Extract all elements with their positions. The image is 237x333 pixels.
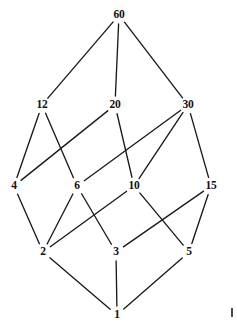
edge-layer bbox=[0, 0, 237, 333]
node-label-5: 5 bbox=[185, 246, 193, 258]
node-label-12: 12 bbox=[35, 99, 48, 111]
edge-10-5 bbox=[140, 193, 183, 245]
edge-6-3 bbox=[82, 194, 112, 245]
edge-12-6 bbox=[46, 113, 74, 177]
edge-30-10 bbox=[139, 112, 183, 178]
edge-20-10 bbox=[117, 114, 132, 177]
edge-3-1 bbox=[116, 261, 117, 306]
edge-2-1 bbox=[50, 258, 110, 309]
edge-20-4 bbox=[21, 111, 108, 181]
edge-60-12 bbox=[48, 22, 113, 98]
node-label-10: 10 bbox=[127, 180, 140, 192]
edge-30-15 bbox=[190, 114, 208, 178]
edge-6-2 bbox=[47, 194, 73, 244]
node-label-20: 20 bbox=[108, 99, 121, 111]
hasse-diagram: 601220304610152351 bbox=[0, 0, 237, 333]
node-label-2: 2 bbox=[39, 246, 47, 258]
edge-60-20 bbox=[115, 24, 118, 96]
edge-group bbox=[17, 22, 209, 309]
node-label-4: 4 bbox=[10, 180, 18, 192]
edge-60-30 bbox=[124, 22, 182, 98]
edge-15-5 bbox=[192, 195, 208, 244]
edge-4-2 bbox=[18, 194, 40, 244]
node-label-30: 30 bbox=[181, 99, 194, 111]
edge-30-6 bbox=[84, 110, 180, 180]
page-edge-artifact bbox=[231, 308, 233, 317]
node-label-3: 3 bbox=[112, 246, 120, 258]
node-label-15: 15 bbox=[204, 180, 217, 192]
node-label-1: 1 bbox=[113, 309, 121, 321]
edge-5-1 bbox=[124, 258, 182, 309]
edge-15-3 bbox=[123, 191, 203, 247]
node-label-6: 6 bbox=[73, 180, 81, 192]
node-label-60: 60 bbox=[112, 9, 125, 21]
edge-10-2 bbox=[50, 191, 126, 246]
